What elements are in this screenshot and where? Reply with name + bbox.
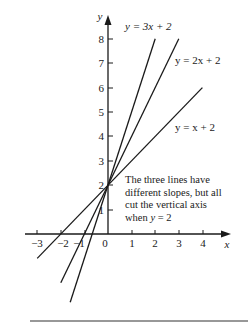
note-line: The three lines have (125, 174, 245, 187)
x-tick-label: −2 (57, 237, 69, 249)
line-label-x-plus-2: y = x + 2 (175, 121, 215, 133)
line-x-plus-2 (37, 88, 202, 259)
x-tick-label: −3 (31, 237, 43, 249)
x-axis-arrow-icon (221, 231, 231, 238)
note-text: = 2 (155, 212, 171, 223)
x-tick-label: 0 (102, 237, 108, 249)
x-tick-label: 1 (129, 237, 135, 249)
note-line: cut the vertical axis (125, 199, 245, 212)
y-axis-label: y (97, 10, 103, 22)
line-3x-plus-2 (70, 39, 155, 303)
x-tick-label: 3 (176, 237, 182, 249)
y-tick-label: 6 (99, 82, 105, 94)
y-tick-label: 5 (99, 106, 105, 118)
y-tick-label: 4 (99, 130, 105, 142)
line-2x-plus-2 (61, 39, 179, 283)
y-axis-arrow-icon (105, 15, 112, 25)
y-tick-label: 2 (99, 179, 105, 191)
y-tick-label: 7 (99, 57, 105, 69)
line-label-3x-plus-2: y = 3x + 2 (124, 20, 172, 32)
line-label-2x-plus-2: y = 2x + 2 (175, 54, 220, 66)
x-axis-label: x (224, 238, 230, 250)
x-tick-label: 4 (200, 237, 206, 249)
note-line: different slopes, but all (125, 187, 245, 200)
x-tick-label: −1 (73, 237, 85, 249)
y-tick-label: 8 (99, 33, 105, 45)
chart-canvas: −3 −2 −1 0 1 2 3 4 x 1 2 3 4 5 6 7 8 y y… (0, 0, 248, 331)
x-tick-label: 2 (152, 237, 158, 249)
y-tick-label: 3 (99, 155, 105, 167)
note-text: when (125, 212, 150, 223)
note-line: when y = 2 (125, 212, 245, 225)
annotation-note: The three lines have different slopes, b… (125, 174, 245, 224)
